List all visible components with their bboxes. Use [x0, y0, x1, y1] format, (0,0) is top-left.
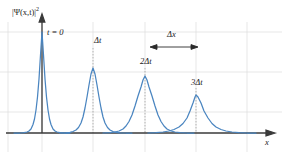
x-axis: [6, 130, 275, 136]
curve-dt2: [103, 76, 194, 133]
delta-x-arrowhead-left: [150, 45, 157, 50]
annotation-t0: t = 0: [47, 28, 64, 37]
wave-packet-curves: [14, 32, 256, 133]
x-axis-arrowhead: [266, 130, 275, 136]
wave-packet-figure: |Ψ(x,t)|2 t = 0 Δt 2Δt 3Δt Δx x: [0, 0, 282, 158]
y-axis-label: |Ψ(x,t)|2: [12, 6, 39, 16]
annotation-dt2: 2Δt: [140, 57, 152, 66]
annotation-delta-x: Δx: [167, 30, 176, 39]
curve-dt3: [148, 95, 256, 133]
annotation-dt1: Δt: [94, 36, 101, 45]
plot-canvas: [0, 0, 282, 158]
x-axis-label: x: [265, 138, 269, 147]
y-axis-arrowhead: [39, 14, 45, 22]
curve-dt1: [60, 68, 132, 133]
delta-x-arrowhead-right: [191, 45, 198, 50]
annotation-dt3: 3Δt: [191, 78, 203, 87]
delta-x-measure-arrow: [150, 45, 198, 50]
